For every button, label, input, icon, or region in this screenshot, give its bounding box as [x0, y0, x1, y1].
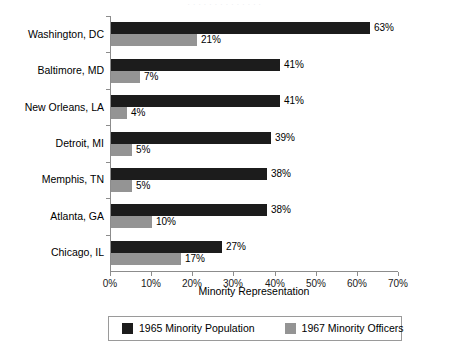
x-axis-tick	[110, 272, 111, 276]
y-axis-tick	[106, 162, 110, 163]
bar-value-label: 38%	[271, 168, 291, 180]
minority-representation-bar-chart: · · · · · · · · · · · · · · Washington, …	[0, 0, 449, 356]
x-axis-tick	[233, 272, 234, 276]
y-axis-tick	[106, 52, 110, 53]
category-label: Washington, DC	[28, 28, 104, 41]
bar-series-2	[111, 144, 132, 156]
bar-value-label: 17%	[185, 253, 205, 265]
bar-series-1	[111, 59, 280, 71]
y-axis-tick	[106, 89, 110, 90]
bar-series-2	[111, 180, 132, 192]
y-axis-tick	[106, 125, 110, 126]
category-label: Baltimore, MD	[37, 64, 104, 77]
x-axis-tick	[316, 272, 317, 276]
category-label: Chicago, IL	[51, 246, 104, 259]
bar-value-label: 41%	[284, 59, 304, 71]
bar-value-label: 4%	[131, 107, 145, 119]
category-label: Detroit, MI	[56, 137, 104, 150]
y-axis-tick	[106, 16, 110, 17]
y-axis-tick	[106, 198, 110, 199]
legend-label-series-2: 1967 Minority Officers	[302, 322, 404, 335]
plot-area: 0%10%20%30%40%50%60%70%63%21%41%7%41%4%3…	[110, 16, 397, 271]
legend-swatch-icon-series-2	[285, 323, 296, 334]
x-axis-tick	[357, 272, 358, 276]
category-label: Atlanta, GA	[50, 210, 104, 223]
category-label: New Orleans, LA	[25, 101, 104, 114]
y-axis-tick	[106, 235, 110, 236]
bar-series-2	[111, 71, 140, 83]
x-axis-title: Minority Representation	[110, 285, 398, 298]
bar-value-label: 7%	[144, 71, 158, 83]
bar-series-2	[111, 253, 181, 265]
bar-series-2	[111, 216, 152, 228]
legend-swatch-icon-series-1	[122, 323, 133, 334]
x-axis-line	[110, 271, 398, 272]
bar-series-1	[111, 204, 267, 216]
x-axis-tick	[275, 272, 276, 276]
bar-value-label: 21%	[201, 34, 221, 46]
bar-series-1	[111, 22, 370, 34]
chart-legend: 1965 Minority Population 1967 Minority O…	[108, 316, 402, 341]
bar-value-label: 38%	[271, 204, 291, 216]
bar-value-label: 10%	[156, 216, 176, 228]
bar-value-label: 41%	[284, 95, 304, 107]
clipped-top-text: · · · · · · · · · · · · · ·	[0, 0, 449, 9]
x-axis-tick	[151, 272, 152, 276]
bar-series-1	[111, 132, 271, 144]
bar-series-1	[111, 168, 267, 180]
bar-series-1	[111, 241, 222, 253]
legend-label-series-1: 1965 Minority Population	[139, 322, 255, 335]
bar-value-label: 27%	[226, 241, 246, 253]
bar-series-2	[111, 107, 127, 119]
x-axis-tick	[398, 272, 399, 276]
bar-value-label: 39%	[275, 132, 295, 144]
bar-value-label: 5%	[136, 144, 150, 156]
category-label: Memphis, TN	[42, 173, 104, 186]
bar-series-1	[111, 95, 280, 107]
bar-series-2	[111, 34, 197, 46]
x-axis-tick	[192, 272, 193, 276]
legend-item-1967-minority-officers: 1967 Minority Officers	[285, 322, 404, 335]
legend-item-1965-minority-population: 1965 Minority Population	[122, 322, 255, 335]
bar-value-label: 63%	[374, 22, 394, 34]
category-axis-labels: Washington, DCBaltimore, MDNew Orleans, …	[0, 16, 104, 271]
bar-value-label: 5%	[136, 180, 150, 192]
